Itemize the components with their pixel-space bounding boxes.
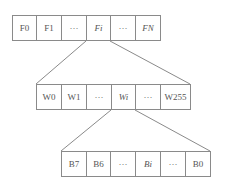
cell-f1: F1 <box>37 16 62 40</box>
cell-b0: B0 <box>186 152 210 176</box>
bit-row: B7 B6 ··· Bi ··· B0 <box>61 151 211 177</box>
expand-line-right <box>110 41 190 84</box>
cell-w1: W1 <box>62 85 87 109</box>
cell-fi: Fi <box>87 16 111 40</box>
expand-line-right <box>135 110 210 151</box>
file-row: F0 F1 ··· Fi ··· FN <box>12 15 161 41</box>
cell-w255: W255 <box>161 85 190 109</box>
cell-ellipsis: ··· <box>111 16 136 40</box>
cell-f0: F0 <box>13 16 37 40</box>
expand-line-left <box>36 41 86 84</box>
cell-fn: FN <box>136 16 160 40</box>
word-row: W0 W1 ··· Wi ··· W255 <box>36 84 191 110</box>
cell-ellipsis: ··· <box>161 152 186 176</box>
cell-ellipsis: ··· <box>62 16 87 40</box>
cell-w0: W0 <box>37 85 62 109</box>
cell-ellipsis: ··· <box>111 152 136 176</box>
cell-bi: Bi <box>136 152 161 176</box>
cell-b7: B7 <box>62 152 87 176</box>
expand-line-left <box>61 110 111 151</box>
cell-wi: Wi <box>112 85 136 109</box>
cell-b6: B6 <box>87 152 111 176</box>
cell-ellipsis: ··· <box>87 85 112 109</box>
cell-ellipsis: ··· <box>136 85 161 109</box>
